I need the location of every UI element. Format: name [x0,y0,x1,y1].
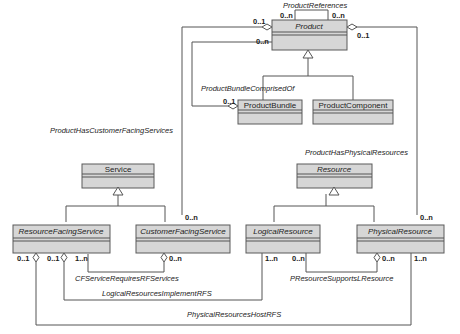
label-logical-resources-implement-rfs: LogicalResourcesImplementRFS [102,289,212,298]
class-product-name: Product [295,22,323,31]
mult-pr-lr: 0..n [382,254,395,263]
label-product-has-cfs: ProductHasCustomerFacingServices [50,126,173,135]
uml-class-diagram: Product ProductBundle ProductComponent S… [0,0,460,334]
pr-diamond [374,253,380,262]
rfs-diamond-lr [61,253,67,262]
label-presource-supports-lresource: PResourceSupportsLResource [290,274,393,283]
label-cfs-requires-rfs: CFServiceRequiresRFServices [75,274,179,283]
class-physical-resource-name: PhysicalResource [368,227,433,236]
class-customer-facing-service[interactable]: CustomerFacingService [136,225,230,253]
mult-lr-pr: 0..n [292,254,305,263]
class-physical-resource[interactable]: PhysicalResource [357,225,444,253]
product-generalization-arrow [303,50,313,58]
mult-bundle-product: 0..n [256,37,269,46]
label-product-bundle-comprised-of: ProductBundleComprisedOf [201,84,295,93]
class-product[interactable]: Product [272,20,347,50]
class-logical-resource[interactable]: LogicalResource [246,225,320,253]
mult-product-cfs-cfs: 0..n [185,213,198,222]
mult-product-references-a: 0..n [280,11,293,20]
class-service-name: Service [105,165,132,174]
mult-bundle-bundle: 0..1 [223,97,236,106]
mult-product-references-b: 0..n [332,11,345,20]
cfs-requires-rfs-line [88,254,164,272]
class-resource[interactable]: Resource [297,164,372,188]
class-product-component[interactable]: ProductComponent [313,100,393,124]
mult-cfs-rfs: 0..n [169,254,182,263]
class-product-bundle-name: ProductBundle [244,101,297,110]
cfs-diamond [161,253,167,262]
mult-pr-rfs: 1..n [414,254,427,263]
mult-lr-rfs: 1..n [265,254,278,263]
class-resource-facing-service[interactable]: ResourceFacingService [13,225,110,253]
mult-product-pr-product: 0..1 [357,31,370,40]
class-product-component-name: ProductComponent [319,101,389,110]
class-rfs-name: ResourceFacingService [19,227,104,236]
class-logical-resource-name: LogicalResource [253,227,313,236]
class-cfs-name: CustomerFacingService [140,227,226,236]
mult-rfs-pr: 0..1 [17,254,30,263]
label-product-references: ProductReferences [283,1,347,10]
rfs-diamond-pr [33,253,39,262]
product-pr-diamond [347,24,357,30]
presource-supports-lresource-line [306,252,377,272]
class-resource-name: Resource [317,165,352,174]
mult-product-cfs-product: 0..1 [253,17,266,26]
mult-product-pr-pr: 0..n [420,213,433,222]
label-product-has-physical-resources: ProductHasPhysicalResources [305,148,408,157]
mult-rfs-cfs: 1..n [75,254,88,263]
class-service[interactable]: Service [82,164,154,188]
mult-rfs-lr: 0..1 [47,254,60,263]
class-product-bundle[interactable]: ProductBundle [238,100,302,124]
label-physical-resources-host-rfs: PhysicalResourcesHostRFS [187,310,281,319]
